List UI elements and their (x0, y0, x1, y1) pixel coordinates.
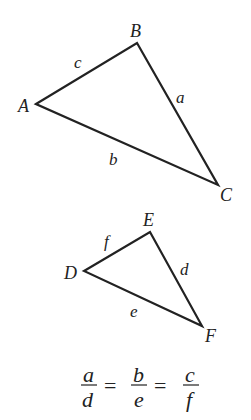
fraction-2-numerator: b (133, 362, 144, 387)
fraction-1-denominator: d (82, 387, 94, 412)
fraction-3-denominator: f (186, 387, 195, 412)
side-b-label: b (109, 150, 118, 169)
proportion-equation: a d = b e = c f (81, 362, 199, 412)
vertex-b-label: B (130, 21, 141, 41)
fraction-3-numerator: c (185, 362, 195, 387)
side-a-label: a (176, 88, 185, 107)
fraction-1-numerator: a (83, 362, 94, 387)
side-f-label: f (104, 232, 111, 251)
vertex-c-label: C (220, 185, 233, 205)
equals-sign-2: = (154, 373, 166, 398)
equals-sign-1: = (104, 373, 116, 398)
triangle-def (84, 232, 202, 326)
vertex-e-label: E (142, 210, 154, 230)
side-d-label: d (180, 260, 189, 279)
triangle-abc (36, 43, 218, 185)
vertex-a-label: A (17, 96, 30, 116)
similar-triangles-diagram: A B C c a b D E F f d e a d = b e = c f (0, 0, 251, 420)
vertex-f-label: F (204, 326, 217, 346)
side-e-label: e (130, 302, 138, 321)
fraction-2-denominator: e (134, 387, 144, 412)
vertex-d-label: D (63, 263, 77, 283)
side-c-label: c (74, 53, 82, 72)
